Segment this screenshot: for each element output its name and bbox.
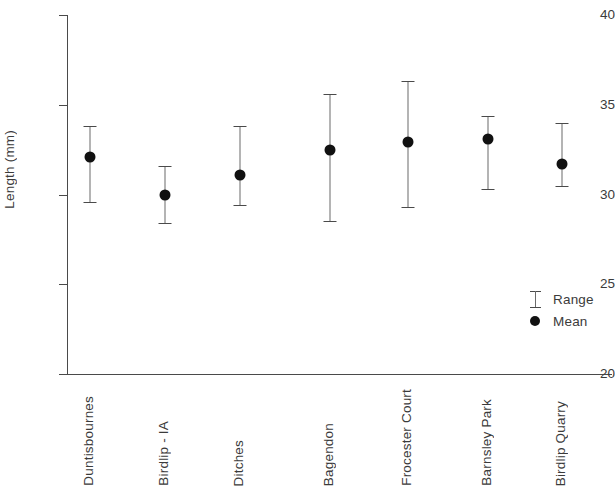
x-axis-label-text: Bagendon bbox=[321, 423, 336, 486]
y-axis-tick bbox=[59, 195, 67, 196]
range-bar bbox=[408, 81, 409, 207]
y-axis-tick-label: 20 bbox=[563, 367, 615, 381]
x-axis-label: Birdlip Quarry bbox=[553, 381, 571, 486]
y-axis-tick bbox=[59, 284, 67, 285]
mean-marker bbox=[85, 151, 96, 162]
mean-marker bbox=[235, 169, 246, 180]
range-cap bbox=[556, 186, 569, 187]
x-axis-label: Birdlip - IA bbox=[156, 381, 174, 486]
mean-marker bbox=[160, 189, 171, 200]
legend-label-range: Range bbox=[547, 292, 594, 307]
legend-item-mean: Mean bbox=[525, 310, 594, 332]
y-axis-tick-label: 30 bbox=[563, 188, 615, 202]
range-cap bbox=[84, 126, 97, 127]
range-cap bbox=[159, 166, 172, 167]
x-axis-line bbox=[67, 374, 612, 375]
range-cap bbox=[482, 116, 495, 117]
mean-marker bbox=[557, 158, 568, 169]
range-bar bbox=[165, 166, 166, 223]
legend-label-mean: Mean bbox=[547, 314, 588, 329]
range-cap bbox=[159, 223, 172, 224]
x-axis-label-text: Barnsley Park bbox=[479, 399, 494, 486]
y-axis-tick bbox=[59, 374, 67, 375]
x-axis-label: Ditches bbox=[231, 381, 249, 486]
x-axis-label-text: Birdlip Quarry bbox=[553, 401, 568, 486]
range-cap bbox=[324, 221, 337, 222]
legend: Range Mean bbox=[525, 288, 594, 332]
legend-item-range: Range bbox=[525, 288, 594, 310]
y-axis-tick bbox=[59, 15, 67, 16]
x-axis-label: Barnsley Park bbox=[479, 381, 497, 486]
range-cap bbox=[234, 205, 247, 206]
range-bar bbox=[330, 94, 331, 221]
range-cap bbox=[324, 94, 337, 95]
x-axis-label-text: Ditches bbox=[231, 440, 246, 486]
range-cap bbox=[556, 123, 569, 124]
y-axis-title: Length (mm) bbox=[2, 130, 26, 209]
x-axis-label-text: Birdlip - IA bbox=[156, 421, 171, 486]
x-axis-label-text: Frocester Court bbox=[399, 389, 414, 486]
range-cap bbox=[482, 189, 495, 190]
range-cap bbox=[234, 126, 247, 127]
range-cap bbox=[402, 81, 415, 82]
y-axis-line bbox=[67, 15, 68, 375]
filled-circle-icon bbox=[525, 310, 547, 332]
range-bar bbox=[90, 126, 91, 201]
range-cap bbox=[402, 207, 415, 208]
range-bar bbox=[240, 126, 241, 205]
y-axis-tick-label: 40 bbox=[563, 8, 615, 22]
mean-marker bbox=[403, 137, 414, 148]
y-axis-tick bbox=[59, 105, 67, 106]
x-axis-label: Frocester Court bbox=[399, 381, 417, 486]
x-axis-label: Duntisbournes bbox=[81, 381, 99, 486]
mean-marker bbox=[483, 133, 494, 144]
range-cap bbox=[84, 202, 97, 203]
range-mean-chart: Length (mm) 2025303540 DuntisbournesBird… bbox=[0, 0, 615, 489]
x-axis-label: Bagendon bbox=[321, 381, 339, 486]
error-bar-icon bbox=[525, 288, 547, 310]
mean-marker bbox=[325, 144, 336, 155]
x-axis-label-text: Duntisbournes bbox=[81, 396, 96, 486]
range-bar bbox=[562, 123, 563, 186]
range-bar bbox=[488, 116, 489, 190]
y-axis-tick-label: 35 bbox=[563, 98, 615, 112]
